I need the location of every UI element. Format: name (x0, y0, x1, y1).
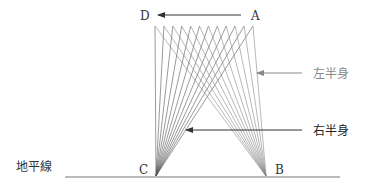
horizon-label: 地平線 (16, 159, 52, 174)
fan-line-to-c (156, 26, 235, 176)
fan-line-to-c (156, 26, 191, 176)
fan-line-to-b (182, 26, 266, 176)
fan-line-to-b (208, 26, 266, 176)
point-label-b: B (275, 163, 284, 177)
left-half-label: 左半身 (313, 66, 349, 81)
fan-line-to-b (155, 26, 266, 176)
point-label-d: D (140, 9, 150, 23)
right-half-label: 右半身 (313, 123, 349, 138)
point-label-a: A (250, 9, 260, 23)
fan-lines-to-c (155, 26, 253, 176)
fan-line-to-b (200, 26, 266, 176)
fan-line-to-b (217, 26, 266, 176)
point-label-c: C (139, 163, 148, 177)
fan-line-to-c (156, 26, 226, 176)
fan-line-to-b (226, 26, 266, 176)
fan-diagram: D A C B 左半身 右半身 地平線 (0, 0, 370, 196)
fan-line-to-c (156, 26, 244, 176)
fan-line-to-c (155, 26, 156, 176)
fan-line-to-c (156, 26, 208, 176)
fan-lines-to-b (155, 26, 266, 176)
